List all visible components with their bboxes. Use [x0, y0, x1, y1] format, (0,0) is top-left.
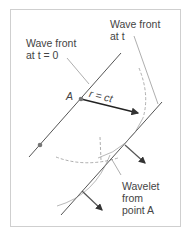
label-wavelet-line3: point A	[122, 204, 160, 216]
label-wavefront-t-line2: at t	[110, 30, 160, 42]
label-wavelet: Wavelet from point A	[122, 180, 160, 216]
wavelet-arc-a-dashed	[139, 68, 146, 118]
label-wavefront-t0-line1: Wave front	[26, 37, 76, 49]
point-a	[79, 97, 84, 102]
leader-wavelet	[111, 158, 121, 175]
wavelet-arc-solid-upper	[98, 118, 143, 158]
label-wavefront-t0: Wave front at t = 0	[26, 37, 76, 61]
propagation-arrow-lower	[82, 191, 102, 210]
label-wavelet-line2: from	[122, 192, 160, 204]
label-wavefront-t: Wave front at t	[110, 18, 160, 42]
wavelet-arc-solid-lower	[57, 155, 110, 206]
label-wavelet-line1: Wavelet	[122, 180, 160, 192]
leader-t0	[67, 58, 89, 84]
label-wavefront-t-line1: Wave front	[110, 18, 160, 30]
propagation-arrow-upper	[125, 145, 145, 163]
label-wavefront-t0-line2: at t = 0	[26, 49, 76, 61]
label-point-a: A	[66, 90, 73, 102]
leader-t	[134, 36, 158, 104]
point-lower	[38, 143, 43, 148]
wavelet-vertical-dashed	[100, 137, 101, 160]
